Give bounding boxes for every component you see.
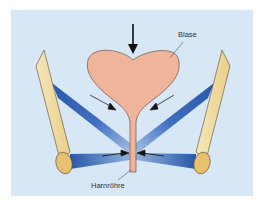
urethra-leader-line (118, 170, 131, 180)
left-bone (36, 50, 75, 176)
pressure-arrow-icon (128, 24, 138, 54)
pelvic-floor-diagram (0, 0, 262, 202)
urethra-label: Harnröhre (91, 181, 125, 190)
right-bone (191, 50, 230, 176)
bladder-label: Blase (178, 30, 197, 39)
